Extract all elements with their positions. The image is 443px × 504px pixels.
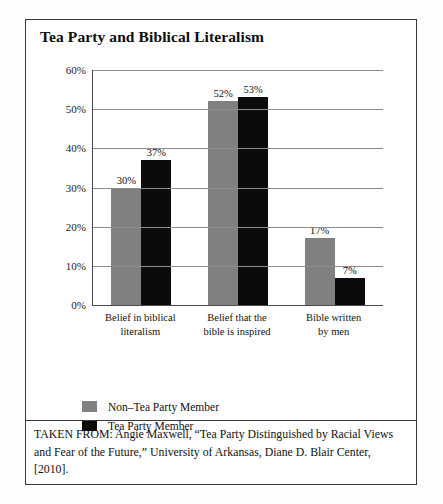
legend-item[interactable]: Non–Tea Party Member [82, 397, 219, 416]
x-tick-label: Belief in biblicalliteralism [92, 311, 189, 338]
bar[interactable]: 53% [238, 97, 268, 305]
bar-value-label: 53% [243, 84, 262, 95]
x-tick-label: Belief that thebible is inspired [189, 311, 286, 338]
gridline [93, 148, 383, 149]
chart-plot: 0%10%20%30%40%50%60% 30%37%52%53%17%7% B… [26, 70, 416, 332]
y-tick-label: 10% [66, 260, 86, 272]
bar[interactable]: 17% [305, 238, 335, 305]
bar-value-label: 52% [213, 88, 232, 99]
figure-frame: Tea Party and Biblical Literalism 0%10%2… [25, 19, 417, 485]
caption-divider [26, 420, 416, 421]
gridline [93, 109, 383, 110]
gridline [93, 266, 383, 267]
gridline [93, 188, 383, 189]
chart-title: Tea Party and Biblical Literalism [40, 28, 264, 46]
figure-page: Tea Party and Biblical Literalism 0%10%2… [0, 0, 443, 504]
bar[interactable]: 30% [111, 188, 141, 306]
y-tick-label: 20% [66, 221, 86, 233]
x-axis: Belief in biblicalliteralismBelief that … [92, 311, 382, 338]
legend-swatch [82, 401, 97, 412]
gridline [93, 227, 383, 228]
y-tick-label: 0% [71, 299, 86, 311]
legend-label: Non–Tea Party Member [108, 401, 219, 413]
y-tick-label: 60% [66, 64, 86, 76]
y-tick-label: 50% [66, 103, 86, 115]
gridline [93, 70, 383, 71]
y-axis: 0%10%20%30%40%50%60% [26, 70, 92, 305]
source-caption: TAKEN FROM: Angie Maxwell, “Tea Party Di… [34, 426, 406, 479]
bar-value-label: 30% [117, 175, 136, 186]
bar[interactable]: 37% [141, 160, 171, 305]
y-tick-label: 40% [66, 142, 86, 154]
x-tick-label: Bible writtenby men [285, 311, 382, 338]
y-tick-label: 30% [66, 182, 86, 194]
bar[interactable]: 7% [335, 278, 365, 305]
plot-area: 30%37%52%53%17%7% [92, 70, 383, 306]
bar[interactable]: 52% [208, 101, 238, 305]
